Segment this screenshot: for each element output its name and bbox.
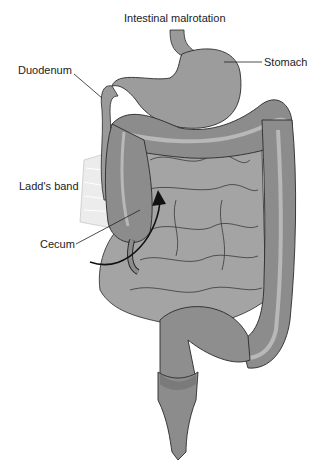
duodenum-leader bbox=[74, 74, 102, 98]
malrotation-illustration bbox=[0, 0, 324, 469]
sigmoid-colon bbox=[160, 307, 250, 389]
